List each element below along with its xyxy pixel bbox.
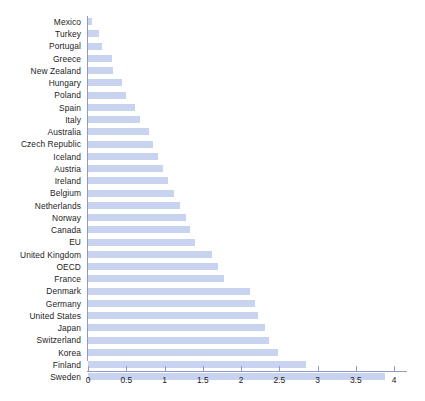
category-label-row: Spain: [0, 102, 84, 114]
bar: [88, 141, 153, 148]
x-axis-tick-label: 2.5: [273, 376, 285, 384]
bar-row: [88, 163, 394, 175]
bar-row: [88, 212, 394, 224]
bar: [88, 153, 158, 160]
category-label: Greece: [53, 55, 84, 63]
category-label: Poland: [54, 91, 84, 99]
bar-row: [88, 114, 394, 126]
category-label-row: Belgium: [0, 188, 84, 200]
bar: [88, 275, 224, 282]
category-axis-labels: MexicoTurkeyPortugalGreeceNew ZealandHun…: [0, 16, 84, 361]
bar-row: [88, 188, 394, 200]
category-label: Norway: [52, 214, 84, 222]
bar: [88, 18, 92, 25]
category-label: Italy: [65, 116, 84, 124]
category-label-row: United States: [0, 310, 84, 322]
bar: [88, 30, 99, 37]
category-label: New Zealand: [31, 67, 84, 75]
category-label: Japan: [58, 324, 84, 332]
category-label: Switzerland: [37, 336, 84, 344]
bar: [88, 324, 265, 331]
bar: [88, 202, 180, 209]
bar-row: [88, 286, 394, 298]
x-axis-tick: [356, 366, 357, 372]
bar-row: [88, 347, 394, 359]
bar-row: [88, 237, 394, 249]
bar-row: [88, 90, 394, 102]
x-axis-tick-label: 0: [86, 376, 91, 384]
category-label-row: OECD: [0, 261, 84, 273]
category-label-row: Poland: [0, 90, 84, 102]
x-axis-tick: [279, 366, 280, 372]
category-label: United Kingdom: [20, 251, 84, 259]
x-axis-tick: [88, 366, 89, 372]
x-axis-tick-label: 3.5: [350, 376, 362, 384]
bar: [88, 165, 163, 172]
category-label: United States: [29, 312, 84, 320]
bar: [88, 190, 174, 197]
category-label-row: Japan: [0, 322, 84, 334]
bar-row: [88, 200, 394, 212]
category-label: Sweden: [50, 373, 84, 381]
bar: [88, 300, 255, 307]
category-label-row: Canada: [0, 224, 84, 236]
category-label: France: [54, 275, 84, 283]
category-label-row: Denmark: [0, 286, 84, 298]
category-label: Czech Republic: [21, 140, 84, 148]
bar: [88, 263, 218, 270]
bar: [88, 177, 168, 184]
category-label-row: Korea: [0, 347, 84, 359]
category-label: Korea: [58, 349, 84, 357]
category-label: Iceland: [53, 153, 84, 161]
bar-row: [88, 175, 394, 187]
category-label: Germany: [46, 300, 84, 308]
category-label-row: Ireland: [0, 175, 84, 187]
category-label-row: France: [0, 273, 84, 285]
bar-row: [88, 77, 394, 89]
category-label-row: United Kingdom: [0, 249, 84, 261]
category-label-row: Czech Republic: [0, 139, 84, 151]
category-label: EU: [69, 238, 84, 246]
bar: [88, 373, 385, 380]
y-axis-line: [87, 16, 88, 361]
category-label: Portugal: [49, 42, 84, 50]
bar-row: [88, 16, 394, 28]
category-label-row: Hungary: [0, 77, 84, 89]
x-axis-tick-label: 1.5: [197, 376, 209, 384]
bar-row: [88, 28, 394, 40]
bar-row: [88, 151, 394, 163]
category-label-row: Australia: [0, 126, 84, 138]
x-axis-tick: [126, 366, 127, 372]
bar: [88, 361, 306, 368]
bar: [88, 214, 186, 221]
category-label-row: Italy: [0, 114, 84, 126]
bar: [88, 226, 190, 233]
x-axis-line: [87, 371, 407, 372]
bar: [88, 55, 112, 62]
x-axis-tick: [318, 366, 319, 372]
category-label-row: Sweden: [0, 371, 84, 383]
bar-row: [88, 249, 394, 261]
bar-row: [88, 126, 394, 138]
bar-row: [88, 139, 394, 151]
category-label-row: Netherlands: [0, 200, 84, 212]
bar-row: [88, 310, 394, 322]
category-label-row: Norway: [0, 212, 84, 224]
category-label: Finland: [53, 361, 84, 369]
category-label: OECD: [56, 263, 84, 271]
x-axis-tick-label: 3: [315, 376, 320, 384]
category-label-row: Germany: [0, 298, 84, 310]
bar-row: [88, 298, 394, 310]
category-label: Netherlands: [35, 202, 84, 210]
bar-row: [88, 322, 394, 334]
bar-row: [88, 335, 394, 347]
bar: [88, 128, 149, 135]
bar-row: [88, 273, 394, 285]
category-label: Ireland: [55, 177, 84, 185]
bar-chart: MexicoTurkeyPortugalGreeceNew ZealandHun…: [0, 0, 425, 401]
bar: [88, 288, 250, 295]
bar: [88, 251, 212, 258]
category-label: Belgium: [50, 189, 84, 197]
x-axis-tick-label: 0.5: [120, 376, 132, 384]
bar: [88, 349, 278, 356]
